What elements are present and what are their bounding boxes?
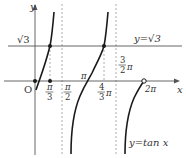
pi-over-2-num: π [64,82,71,92]
two-pi-open-point [142,79,146,83]
origin-label: O [24,84,32,95]
x-axis-label: x [177,84,183,95]
four-thirds-den: 3 [99,92,104,102]
four-thirds-num: 4 [99,82,104,92]
horizontal-line-label: y=√3 [133,33,161,44]
three-halves-den: 2 [120,65,125,75]
pi-over-3-den: 3 [47,92,52,102]
intersection-point-1 [48,44,52,48]
three-halves-num: 3 [120,55,125,65]
y-tick-sqrt3: √3 [17,34,30,45]
two-pi-label: 2π [144,84,156,94]
x-axis-arrow-icon [174,79,180,84]
y-axis-label: y [29,1,36,12]
three-halves-pi-suffix: π [126,62,133,72]
function-label: y=tan x [128,137,169,148]
origin-point [33,79,37,83]
tan-graph-diagram: y x O √3 y=√3 π 3 π 2 π 4 3 π 3 2 π 2π y… [0,0,186,158]
tan-branch-1 [36,12,54,90]
pi-label: π [80,71,87,81]
pi-over-2-den: 2 [65,92,70,102]
intersection-point-2 [102,44,106,48]
pi-over-3-num: π [46,82,53,92]
four-thirds-pi-suffix: π [105,88,112,98]
